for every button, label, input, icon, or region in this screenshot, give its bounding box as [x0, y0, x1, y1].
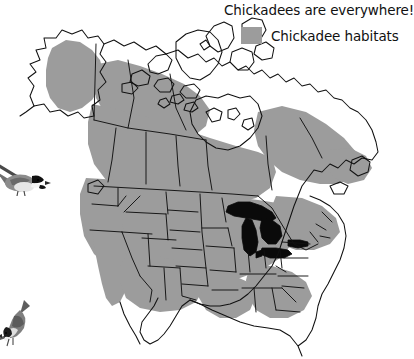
legend-label-habitat: Chickadee habitats [271, 28, 399, 44]
chickadee-photo-lower [0, 296, 44, 354]
legend-swatch-habitat [241, 27, 262, 44]
map-title: Chickadees are everywhere! [224, 2, 388, 19]
chickadee-photo-upper [0, 158, 54, 202]
legend: Chickadee habitats [241, 27, 399, 44]
